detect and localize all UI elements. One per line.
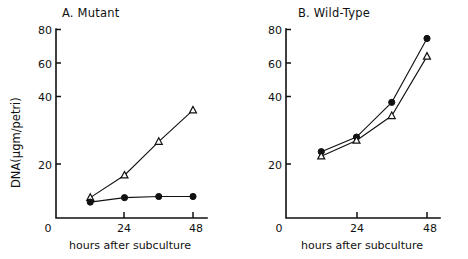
panel-a-ytick-label-20: 20 (38, 159, 52, 172)
panel-b-xtick-label-48: 48 (423, 222, 437, 235)
panel-a-title: A. Mutant (62, 6, 120, 20)
panel-a-y-axis-label: DNA(μgm/petri) (9, 97, 23, 188)
data-point-filled-circle (424, 35, 430, 41)
panel-b-ytick-label-20: 20 (268, 159, 282, 172)
data-point-filled-circle (121, 195, 127, 201)
panel-b-title: B. Wild-Type (298, 6, 370, 20)
panel-b-xtick-label-0: 0 (276, 222, 283, 235)
data-point-filled-circle (190, 193, 196, 199)
panel-a-ytick-label-60: 60 (38, 58, 52, 71)
panel-b-ytick-label-60: 60 (268, 58, 282, 71)
panel-a-ytick-label-40: 40 (38, 91, 52, 104)
panel-b-ytick-label-40: 40 (268, 91, 282, 104)
panel-a-ytick-label-80: 80 (38, 24, 52, 37)
panel-a-xtick-label-48: 48 (189, 222, 203, 235)
dna-growth-figure: A. Mutant DNA(μgm/petri) 80 60 40 20 0 2… (0, 0, 468, 259)
panel-a-x-axis-label: hours after subculture (69, 239, 191, 252)
figure-background (0, 0, 468, 259)
data-point-filled-circle (87, 199, 93, 205)
panel-a-xtick-label-0: 0 (45, 222, 52, 235)
panel-b-xtick-label-24: 24 (350, 222, 364, 235)
panel-a-xtick-label-24: 24 (117, 222, 131, 235)
panel-b-x-axis-label: hours after subculture (301, 239, 423, 252)
panel-b-ytick-label-80: 80 (268, 24, 282, 37)
data-point-filled-circle (156, 193, 162, 199)
data-point-filled-circle (389, 99, 395, 105)
